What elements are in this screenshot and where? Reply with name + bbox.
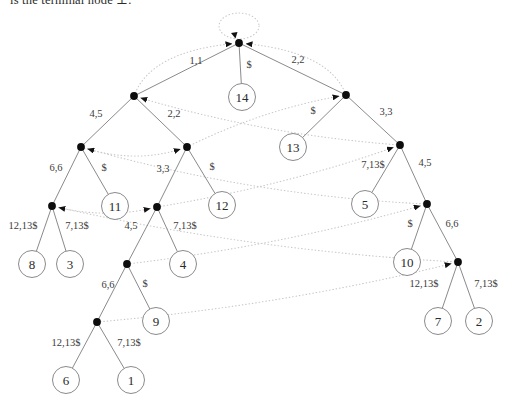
- tree-edge: [127, 207, 157, 264]
- leaf-label: 9: [153, 314, 160, 329]
- leaf-label: 1: [128, 373, 135, 388]
- edge-label: 3,3: [156, 163, 169, 174]
- tree-edge: [97, 264, 127, 322]
- nodes-layer: 1413111258341097261: [19, 39, 493, 393]
- edge-label: $: [209, 161, 214, 172]
- tree-edge: [458, 262, 475, 308]
- internal-node: [130, 92, 138, 100]
- leaf-label: 11: [109, 199, 122, 214]
- leaf-label: 6: [63, 373, 70, 388]
- internal-node: [423, 200, 431, 208]
- edge-label: 2,2: [167, 108, 180, 119]
- leaf-label: 4: [180, 257, 187, 272]
- tree-edge: [157, 147, 187, 207]
- edge-label: 4,5: [89, 108, 102, 119]
- leaf-label: 13: [287, 140, 300, 155]
- edge-label: $: [142, 278, 147, 289]
- leaf-label: 12: [216, 198, 229, 213]
- suffix-links-layer: [52, 13, 458, 322]
- tree-edge: [442, 262, 458, 308]
- edge-label: 2,2: [291, 54, 304, 65]
- tree-edge: [303, 95, 346, 138]
- edge-label: $: [407, 218, 412, 229]
- suffix-tree-diagram: 1,1$2,24,52,2$3,36,6$3,3$7,13$4,512,13$7…: [0, 0, 509, 405]
- internal-node: [454, 258, 462, 266]
- tree-edge: [134, 96, 187, 147]
- internal-node: [77, 143, 85, 151]
- suffix-link-arrow: [187, 96, 339, 147]
- tree-edge: [346, 95, 400, 145]
- tree-edge: [400, 145, 427, 204]
- tree-edge: [36, 206, 52, 251]
- leaf-label: 8: [29, 257, 36, 272]
- suffix-link-arrow: [81, 147, 180, 156]
- edge-label: 7,13$: [117, 337, 141, 348]
- suffix-link-arrow: [127, 206, 420, 264]
- internal-node: [48, 202, 56, 210]
- figure-canvas: is the terminal node ⊥. 1,1$2,24,52,2$3,…: [0, 0, 509, 405]
- edge-label: 4,5: [124, 220, 137, 231]
- edge-label: 7,13$: [65, 220, 89, 231]
- edge-label: 7,13$: [361, 159, 385, 170]
- root-suffix-loop: [219, 13, 259, 39]
- edge-label: 7,13$: [474, 278, 498, 289]
- edge-label: 1,1: [189, 55, 202, 66]
- edge-label: 3,3: [379, 106, 392, 117]
- root-loop-arrowhead-icon: [231, 32, 238, 39]
- edge-label: 12,13$: [9, 220, 38, 231]
- tree-edge: [52, 147, 81, 206]
- leaf-label: 5: [362, 197, 369, 212]
- internal-node: [396, 141, 404, 149]
- leaf-label: 10: [401, 255, 414, 270]
- tree-edge: [427, 204, 458, 262]
- edge-label: $: [310, 105, 315, 116]
- edge-label: 6,6: [101, 279, 114, 290]
- tree-edge: [81, 96, 134, 147]
- internal-node: [153, 203, 161, 211]
- edge-label: $: [101, 162, 106, 173]
- tree-edge: [134, 43, 239, 96]
- leaf-label: 7: [435, 314, 442, 329]
- edge-label: $: [246, 59, 251, 70]
- edge-label: 6,6: [445, 218, 458, 229]
- edge-label: 12,13$: [52, 337, 81, 348]
- leaf-label: 3: [67, 257, 74, 272]
- tree-edge: [239, 43, 346, 95]
- internal-node: [93, 318, 101, 326]
- internal-node: [183, 143, 191, 151]
- tree-edge: [52, 206, 66, 251]
- tree-edge: [411, 204, 427, 249]
- edge-label: 7,13$: [173, 220, 197, 231]
- internal-node: [342, 91, 350, 99]
- leaf-label: 14: [236, 90, 250, 105]
- edge-label: 12,13$: [410, 278, 439, 289]
- tree-edge: [239, 43, 241, 84]
- edge-label: 4,5: [418, 157, 431, 168]
- suffix-link-arrow: [141, 98, 400, 145]
- edge-label: 6,6: [49, 162, 62, 173]
- internal-node: [123, 260, 131, 268]
- internal-node: [235, 39, 243, 47]
- leaf-label: 2: [476, 314, 483, 329]
